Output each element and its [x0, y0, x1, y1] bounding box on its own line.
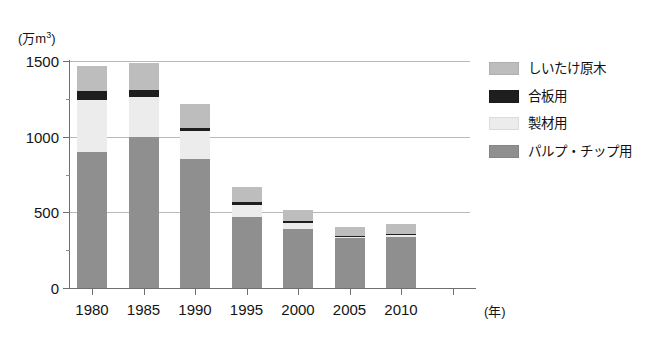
- bar-segment-2000-shiitake: [283, 210, 313, 221]
- y-tick-1500: [63, 61, 70, 62]
- x-tick-label-2010: 2010: [384, 301, 417, 318]
- x-tick-1990: [195, 288, 196, 295]
- x-tick-1995: [247, 288, 248, 295]
- x-tick-label-2005: 2005: [333, 301, 366, 318]
- bar-segment-1980-pulp: [77, 152, 107, 288]
- bar-segment-2010-pulp: [386, 237, 416, 288]
- bar-segment-1985-lumber: [129, 97, 159, 136]
- bar-1990: [180, 104, 210, 288]
- bar-segment-2010-shiitake: [386, 224, 416, 235]
- y-axis-unit-close: ): [51, 31, 55, 46]
- bar-segment-1980-lumber: [77, 100, 107, 151]
- y-tick-label-1500: 1500: [26, 53, 59, 70]
- y-tick-minor-250: [66, 250, 70, 251]
- bar-segment-1990-lumber: [180, 131, 210, 159]
- legend-label-shiitake: しいたけ原木: [528, 62, 606, 76]
- y-axis-unit-label: (万m3): [18, 28, 56, 47]
- bar-segment-2005-shiitake: [335, 227, 365, 236]
- bar-segment-1995-lumber: [232, 205, 262, 217]
- x-tick-2000: [298, 288, 299, 295]
- y-tick-minor-750: [66, 175, 70, 176]
- bar-segment-2000-lumber: [283, 223, 313, 229]
- bar-segment-2005-pulp: [335, 238, 365, 288]
- bar-segment-1990-plywood: [180, 128, 210, 132]
- x-tick-label-1990: 1990: [178, 301, 211, 318]
- legend-label-plywood: 合板用: [528, 90, 567, 104]
- bar-segment-1995-shiitake: [232, 187, 262, 201]
- y-tick-label-0: 0: [51, 280, 59, 297]
- bar-segment-1985-pulp: [129, 137, 159, 288]
- x-tick-label-1985: 1985: [127, 301, 160, 318]
- x-tick-2010: [401, 288, 402, 295]
- y-tick-label-500: 500: [34, 204, 59, 221]
- bar-2005: [335, 227, 365, 288]
- x-tick-1985: [144, 288, 145, 295]
- y-tick-label-1000: 1000: [26, 128, 59, 145]
- bar-segment-2000-plywood: [283, 221, 313, 223]
- bar-segment-2005-lumber: [335, 237, 365, 239]
- bar-2010: [386, 224, 416, 288]
- x-axis-line: [64, 288, 476, 289]
- bar-2000: [283, 210, 313, 288]
- bar-segment-2005-plywood: [335, 236, 365, 237]
- bar-segment-1990-shiitake: [180, 104, 210, 127]
- x-tick-2005: [350, 288, 351, 295]
- y-tick-minor-1250: [66, 99, 70, 100]
- x-tick-end: [453, 288, 454, 295]
- chart-legend: しいたけ原木合板用製材用パルプ・チップ用: [489, 62, 632, 158]
- x-tick-label-1995: 1995: [230, 301, 263, 318]
- bar-segment-1990-pulp: [180, 159, 210, 288]
- bar-segment-2010-plywood: [386, 234, 416, 235]
- legend-label-pulp: パルプ・チップ用: [528, 145, 632, 159]
- legend-swatch-lumber: [489, 117, 519, 130]
- chart-root: (万m3) 050010001500 198019851990199520002…: [0, 0, 666, 344]
- plot-area: 050010001500 198019851990199520002005201…: [70, 61, 470, 288]
- bar-segment-2000-pulp: [283, 229, 313, 288]
- bar-segment-1995-plywood: [232, 202, 262, 205]
- legend-swatch-plywood: [489, 90, 519, 103]
- legend-item-plywood[interactable]: 合板用: [489, 90, 632, 104]
- y-tick-1000: [63, 137, 70, 138]
- bar-segment-1995-pulp: [232, 217, 262, 288]
- x-tick-1980: [92, 288, 93, 295]
- bar-segment-1980-shiitake: [77, 66, 107, 92]
- bar-segment-1980-plywood: [77, 91, 107, 100]
- x-axis-title: (年): [484, 301, 506, 320]
- bar-segment-1985-plywood: [129, 90, 159, 98]
- bar-1980: [77, 66, 107, 288]
- y-tick-0: [63, 288, 70, 289]
- bar-segment-1985-shiitake: [129, 63, 159, 90]
- legend-swatch-shiitake: [489, 62, 519, 75]
- legend-label-lumber: 製材用: [528, 117, 567, 131]
- legend-swatch-pulp: [489, 145, 519, 158]
- y-tick-500: [63, 212, 70, 213]
- y-axis-unit-text: (万m: [18, 31, 46, 46]
- bar-segment-2010-lumber: [386, 235, 416, 237]
- legend-item-lumber[interactable]: 製材用: [489, 117, 632, 131]
- legend-item-pulp[interactable]: パルプ・チップ用: [489, 145, 632, 159]
- bar-1985: [129, 63, 159, 288]
- x-tick-label-1980: 1980: [75, 301, 108, 318]
- x-tick-label-2000: 2000: [281, 301, 314, 318]
- legend-item-shiitake[interactable]: しいたけ原木: [489, 62, 632, 76]
- bar-1995: [232, 187, 262, 288]
